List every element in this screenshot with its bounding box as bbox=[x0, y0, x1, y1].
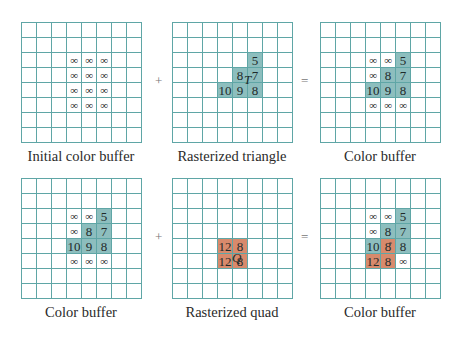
pixel-cell bbox=[188, 128, 203, 143]
pixel-cell: 8 bbox=[381, 254, 396, 269]
pixel-cell bbox=[188, 68, 203, 83]
pixel-cell bbox=[52, 113, 67, 128]
pixel-cell bbox=[173, 98, 188, 113]
result2-caption: Color buffer bbox=[300, 304, 460, 321]
pixel-cell bbox=[278, 284, 293, 299]
depth-value: 12 bbox=[367, 255, 380, 268]
pixel-cell bbox=[97, 179, 112, 194]
pixel-cell bbox=[52, 98, 67, 113]
pixel-cell bbox=[233, 53, 248, 68]
depth-value: 10 bbox=[219, 84, 232, 97]
pixel-cell bbox=[278, 254, 293, 269]
pixel-cell bbox=[336, 269, 351, 284]
pixel-cell bbox=[263, 284, 278, 299]
pixel-cell: ∞ bbox=[381, 209, 396, 224]
pixel-cell bbox=[321, 269, 336, 284]
pixel-cell bbox=[127, 128, 142, 143]
depth-value: ∞ bbox=[100, 256, 107, 267]
pixel-cell: 5 bbox=[396, 53, 411, 68]
equals-operator-row1: = bbox=[301, 73, 308, 89]
pixel-cell bbox=[233, 23, 248, 38]
pixel-cell bbox=[127, 53, 142, 68]
pixel-cell bbox=[203, 194, 218, 209]
pixel-cell bbox=[411, 254, 426, 269]
pixel-cell bbox=[366, 113, 381, 128]
pixel-cell bbox=[203, 38, 218, 53]
pixel-cell: 8 bbox=[381, 224, 396, 239]
pixel-cell bbox=[336, 113, 351, 128]
pixel-cell: ∞ bbox=[82, 53, 97, 68]
pixel-cell bbox=[278, 269, 293, 284]
pixel-cell bbox=[82, 194, 97, 209]
pixel-cell: 5 bbox=[248, 53, 263, 68]
pixel-cell bbox=[411, 194, 426, 209]
pixel-cell bbox=[233, 194, 248, 209]
pixel-cell bbox=[218, 23, 233, 38]
depth-value: 7 bbox=[400, 225, 407, 238]
pixel-cell bbox=[112, 83, 127, 98]
pixel-cell bbox=[351, 224, 366, 239]
pixel-cell bbox=[188, 224, 203, 239]
pixel-cell bbox=[248, 194, 263, 209]
pixel-cell bbox=[263, 239, 278, 254]
pixel-cell bbox=[351, 83, 366, 98]
pixel-cell bbox=[37, 209, 52, 224]
pixel-cell bbox=[127, 23, 142, 38]
pixel-cell bbox=[82, 269, 97, 284]
pixel-cell bbox=[321, 23, 336, 38]
pixel-cell bbox=[366, 38, 381, 53]
pixel-cell bbox=[22, 254, 37, 269]
pixel-cell bbox=[263, 83, 278, 98]
pixel-cell: ∞ bbox=[82, 98, 97, 113]
pixel-cell bbox=[278, 38, 293, 53]
pixel-cell bbox=[52, 269, 67, 284]
pixel-cell bbox=[411, 128, 426, 143]
pixel-cell bbox=[263, 254, 278, 269]
pixel-cell bbox=[321, 113, 336, 128]
plus-operator-row1: + bbox=[155, 73, 162, 89]
pixel-cell bbox=[411, 113, 426, 128]
pixel-cell bbox=[263, 53, 278, 68]
pixel-cell bbox=[233, 98, 248, 113]
pixel-cell: 10 bbox=[218, 83, 233, 98]
pixel-cell bbox=[351, 254, 366, 269]
pixel-cell bbox=[336, 38, 351, 53]
pixel-cell bbox=[366, 128, 381, 143]
pixel-cell bbox=[52, 23, 67, 38]
pixel-cell bbox=[396, 38, 411, 53]
pixel-cell bbox=[366, 269, 381, 284]
pixel-cell bbox=[426, 38, 441, 53]
pixel-cell bbox=[37, 284, 52, 299]
pixel-cell bbox=[248, 179, 263, 194]
pixel-cell bbox=[112, 194, 127, 209]
pixel-cell bbox=[112, 209, 127, 224]
pixel-cell bbox=[37, 254, 52, 269]
triangle-grid: 5871098 bbox=[172, 22, 293, 143]
pixel-cell bbox=[67, 284, 82, 299]
pixel-cell bbox=[278, 53, 293, 68]
pixel-cell bbox=[426, 239, 441, 254]
pixel-cell bbox=[233, 224, 248, 239]
pixel-cell bbox=[22, 128, 37, 143]
pixel-cell bbox=[52, 224, 67, 239]
pixel-cell bbox=[248, 128, 263, 143]
pixel-cell bbox=[336, 98, 351, 113]
pixel-cell bbox=[67, 179, 82, 194]
pixel-cell bbox=[82, 179, 97, 194]
pixel-cell: ∞ bbox=[67, 68, 82, 83]
pixel-cell bbox=[336, 179, 351, 194]
pixel-cell bbox=[263, 194, 278, 209]
pixel-cell bbox=[278, 68, 293, 83]
pixel-cell bbox=[248, 239, 263, 254]
depth-value: 8 bbox=[385, 69, 392, 82]
pixel-cell bbox=[52, 209, 67, 224]
depth-value: ∞ bbox=[85, 55, 92, 66]
pixel-cell bbox=[426, 128, 441, 143]
depth-value: 9 bbox=[86, 240, 93, 253]
pixel-cell bbox=[336, 284, 351, 299]
pixel-cell bbox=[37, 269, 52, 284]
pixel-cell bbox=[22, 194, 37, 209]
pixel-cell bbox=[263, 68, 278, 83]
depth-value: 5 bbox=[400, 210, 407, 223]
pixel-cell bbox=[188, 269, 203, 284]
